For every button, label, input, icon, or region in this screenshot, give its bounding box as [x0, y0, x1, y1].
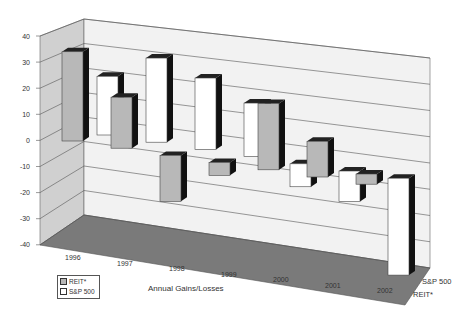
svg-text:-20: -20 — [20, 189, 30, 196]
svg-text:2001: 2001 — [325, 282, 341, 289]
svg-text:-30: -30 — [20, 215, 30, 222]
depth-label-sp500: S&P 500 — [422, 277, 451, 286]
legend: REIT* S&P 500 — [57, 275, 100, 299]
svg-text:20: 20 — [22, 85, 30, 92]
svg-text:1999: 1999 — [221, 271, 237, 278]
svg-text:1996: 1996 — [65, 254, 81, 261]
svg-text:1997: 1997 — [117, 260, 133, 267]
svg-text:-40: -40 — [20, 241, 30, 248]
svg-text:-10: -10 — [20, 163, 30, 170]
svg-text:2002: 2002 — [377, 287, 393, 294]
chart-canvas: 403020100-10-20-30-40 199619971998199920… — [0, 0, 471, 317]
x-axis-title: Annual Gains/Losses — [148, 284, 224, 293]
legend-label: REIT* — [69, 278, 86, 285]
legend-swatch — [60, 278, 67, 285]
legend-item-reit: REIT* — [60, 277, 97, 287]
legend-item-sp500: S&P 500 — [60, 287, 97, 297]
svg-text:30: 30 — [22, 59, 30, 66]
legend-label: S&P 500 — [69, 288, 95, 295]
svg-text:1998: 1998 — [169, 265, 185, 272]
depth-label-reit: REIT* — [413, 290, 433, 299]
y-axis-ticks: 403020100-10-20-30-40 — [20, 33, 40, 249]
legend-swatch — [60, 288, 67, 295]
svg-text:10: 10 — [22, 111, 30, 118]
svg-text:40: 40 — [22, 33, 30, 40]
svg-text:0: 0 — [26, 137, 30, 144]
svg-text:2000: 2000 — [273, 276, 289, 283]
